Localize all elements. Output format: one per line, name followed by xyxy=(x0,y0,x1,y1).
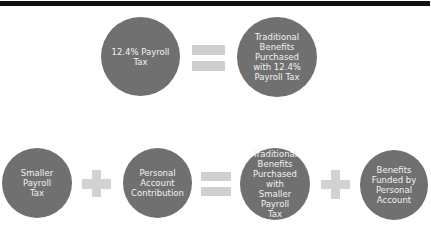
circle-traditional-benefits-smaller-tax: Traditional Benefits Purchased with Smal… xyxy=(240,148,310,220)
circle-label: Benefits Funded by Personal Account xyxy=(372,165,416,205)
circle-smaller-payroll-tax: Smaller Payroll Tax xyxy=(2,148,72,218)
circle-label: Personal Account Contribution xyxy=(131,168,184,198)
top-rule xyxy=(0,1,430,6)
circle-traditional-benefits-12-4: Traditional Benefits Purchased with 12.4… xyxy=(237,17,317,97)
circle-label: Traditional Benefits Purchased with Smal… xyxy=(244,149,306,219)
equals-icon xyxy=(201,172,231,196)
equals-bar-bottom xyxy=(192,61,225,71)
equals-bar-top xyxy=(192,45,225,55)
plus-icon xyxy=(321,170,350,199)
circle-benefits-funded-personal-account: Benefits Funded by Personal Account xyxy=(360,150,428,220)
circle-payroll-tax-12-4: 12.4% Payroll Tax xyxy=(101,17,180,96)
circle-label: 12.4% Payroll Tax xyxy=(112,47,170,67)
circle-label: Smaller Payroll Tax xyxy=(6,168,68,198)
plus-icon xyxy=(82,170,111,197)
circle-label: Traditional Benefits Purchased with 12.4… xyxy=(253,32,301,82)
equals-icon xyxy=(192,45,225,71)
circle-personal-account-contribution: Personal Account Contribution xyxy=(123,148,192,218)
equals-bar-bottom xyxy=(201,187,231,196)
equals-bar-top xyxy=(201,172,231,181)
